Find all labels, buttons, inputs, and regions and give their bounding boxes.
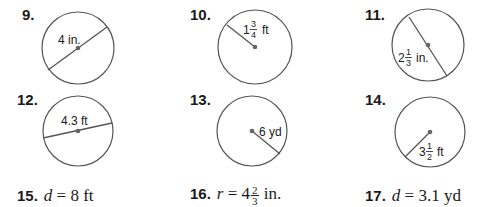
measure-label-9: 4 in. [58,33,81,47]
svg-text:3: 3 [406,58,411,68]
svg-text:1: 1 [243,23,250,37]
svg-text:3: 3 [251,19,256,29]
circle-figure-13: 6 yd [217,96,287,166]
circle-figure-12: 4.3 ft [43,96,113,166]
svg-text:1: 1 [427,141,432,151]
svg-text:ft: ft [437,145,444,159]
text-problem-17: 17.d = 3.1 yd [365,186,461,206]
circle-figure-11: 2 1 3 in. [392,9,464,81]
text-problem-15: 15.d = 8 ft [17,186,94,206]
svg-text:4: 4 [251,30,256,40]
svg-text:ft: ft [262,23,269,37]
svg-text:3: 3 [419,145,426,159]
svg-text:4.3 ft: 4.3 ft [61,114,88,128]
svg-text:2: 2 [398,51,405,65]
svg-text:2: 2 [427,152,432,162]
svg-text:1: 1 [406,47,411,57]
svg-text:6 yd: 6 yd [259,125,282,139]
circle-figures: 4 in. 1 3 4 ft 2 1 3 in. 4.3 ft 6 yd [0,0,483,207]
text-problem-16: 16.r = 423 in. [190,184,281,206]
circle-figure-10: 1 3 4 ft [218,10,292,84]
svg-text:in.: in. [416,51,429,65]
circle-figure-14: 3 1 2 ft [395,97,465,167]
circle-figure-9: 4 in. [42,12,114,84]
